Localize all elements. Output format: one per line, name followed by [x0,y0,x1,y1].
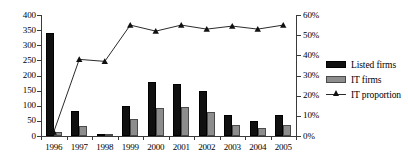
x-axis-tick [245,137,246,140]
legend-label-it-firms: IT firms [351,75,381,85]
y-axis-left-tick-label: 350 [23,26,36,35]
y-axis-left-tick-label: 100 [23,101,36,110]
legend-item-listed-firms: Listed firms [325,57,408,72]
line-path-it-proportion [54,25,284,132]
x-axis-tick [296,137,297,140]
chart-legend: Listed firms IT firms IT proportion [325,57,408,102]
plot-area [41,15,296,136]
y-axis-right-tick-label: 60% [303,11,319,20]
legend-swatch-listed-firms-icon [325,57,347,72]
x-axis-tick-label: 1996 [41,143,67,152]
y-axis-right-tick-label: 10% [303,111,319,120]
y-axis-right-tick-label: 20% [303,91,319,100]
x-axis-tick [92,137,93,140]
legend-item-it-proportion: IT proportion [325,87,408,102]
x-axis-tick-label: 2001 [169,143,195,152]
legend-line-marker-it-proportion-icon [325,87,347,102]
y-axis-right-tick [297,136,301,137]
x-axis-tick-label: 2005 [271,143,297,152]
y-axis-right-tick-label: 40% [303,51,319,60]
y-axis-right-tick-label: 0% [303,132,315,141]
x-axis-tick [41,137,42,140]
x-axis-tick-label: 1999 [118,143,144,152]
x-axis-tick-label: 2004 [245,143,271,152]
x-axis-tick-label: 2003 [220,143,246,152]
x-axis-tick-label: 1997 [67,143,93,152]
line-series-it-proportion [41,15,296,136]
y-axis-left-tick-label: 400 [23,11,36,20]
line-marker-it-proportion-1999 [127,22,133,28]
y-axis-right-tick [297,76,301,77]
y-axis-left-tick-label: 150 [23,86,36,95]
line-marker-it-proportion-2003 [229,23,235,29]
y-axis-right-tick [297,116,301,117]
x-axis-tick-label: 2000 [143,143,169,152]
line-marker-it-proportion-2001 [178,22,184,28]
x-axis-tick [143,137,144,140]
y-axis-right-tick-label: 50% [303,31,319,40]
legend-label-it-proportion: IT proportion [351,90,401,100]
legend-item-it-firms: IT firms [325,72,408,87]
x-axis-tick [271,137,272,140]
line-marker-it-proportion-2005 [280,22,286,28]
x-axis-tick [220,137,221,140]
legend-label-listed-firms: Listed firms [351,60,396,70]
y-axis-left-tick-label: 250 [23,56,36,65]
y-axis-right-tick-label: 30% [303,71,319,80]
y-axis-left-tick-label: 0 [32,132,36,141]
y-axis-left-tick-label: 200 [23,71,36,80]
x-axis-tick [67,137,68,140]
y-axis-left-tick-label: 50 [27,116,36,125]
x-axis-tick [169,137,170,140]
chart-container: 050100150200250300350400 0%10%20%30%40%5… [0,0,408,159]
legend-swatch-it-firms-icon [325,72,347,87]
y-axis-right-tick [297,55,301,56]
line-marker-it-proportion-1996 [51,129,57,135]
x-axis-tick [194,137,195,140]
y-axis-left-tick-label: 300 [23,41,36,50]
x-axis-tick-label: 2002 [194,143,220,152]
y-axis-right-tick [297,35,301,36]
y-axis-right-tick [297,15,301,16]
y-axis-right-tick [297,96,301,97]
x-axis-tick-label: 1998 [92,143,118,152]
x-axis-tick [118,137,119,140]
